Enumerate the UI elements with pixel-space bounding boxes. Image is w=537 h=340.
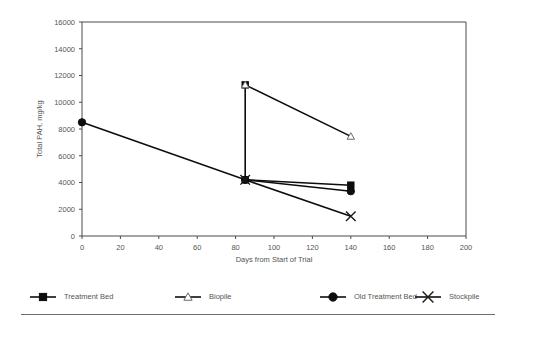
y-tick-label: 16000 <box>54 18 75 27</box>
x-tick-label: 100 <box>268 243 281 252</box>
data-point-marker <box>347 188 354 195</box>
y-tick-label: 8000 <box>58 125 75 134</box>
x-tick-label: 20 <box>116 243 124 252</box>
legend-item-label: Stockpile <box>449 292 479 301</box>
legend-marker <box>39 293 46 300</box>
legend-item-old-treatment-bed[interactable]: Old Treatment Bed <box>320 292 417 301</box>
x-tick-label: 120 <box>306 243 319 252</box>
series-treatment-bed <box>242 82 354 189</box>
legend-item-treatment-bed[interactable]: Treatment Bed <box>30 292 113 301</box>
x-tick-label: 80 <box>231 243 239 252</box>
legend-item-label: Old Treatment Bed <box>354 292 417 301</box>
legend-item-stockpile[interactable]: Stockpile <box>415 292 479 303</box>
y-axis: 0200040006000800010000120001400016000 <box>54 18 82 241</box>
x-tick-label: 180 <box>421 243 434 252</box>
x-tick-label: 40 <box>155 243 163 252</box>
y-tick-label: 14000 <box>54 45 75 54</box>
data-series-group <box>78 81 355 221</box>
series-path <box>82 122 351 191</box>
y-tick-label: 0 <box>71 232 75 241</box>
legend-svg: Treatment BedBiopileOld Treatment BedSto… <box>20 288 500 306</box>
legend-item-biopile[interactable]: Biopile <box>175 292 232 301</box>
y-tick-label: 10000 <box>54 98 75 107</box>
legend-item-label: Biopile <box>209 292 232 301</box>
series-path <box>245 85 351 185</box>
data-point-marker <box>346 211 356 221</box>
series-path <box>245 85 351 137</box>
x-axis-title: Days from Start of Trial <box>236 255 313 264</box>
x-tick-label: 160 <box>383 243 396 252</box>
x-tick-label: 0 <box>80 243 84 252</box>
plot-frame <box>82 22 466 236</box>
series-biopile <box>242 81 355 139</box>
chart-legend: Treatment BedBiopileOld Treatment BedSto… <box>20 288 500 306</box>
plot-box-edges <box>82 22 466 236</box>
line-chart: 0200040006000800010000120001400016000 02… <box>0 0 537 285</box>
y-axis-title: Total PAH, mg/kg <box>35 100 44 157</box>
y-tick-label: 4000 <box>58 178 75 187</box>
axis-lines <box>82 22 466 236</box>
figure: 0200040006000800010000120001400016000 02… <box>0 0 537 340</box>
x-tick-label: 60 <box>193 243 201 252</box>
legend-item-label: Treatment Bed <box>64 292 113 301</box>
y-tick-label: 12000 <box>54 71 75 80</box>
x-axis: 020406080100120140160180200 <box>80 236 472 252</box>
footer-divider <box>21 314 495 315</box>
legend-marker <box>329 293 337 301</box>
data-point-marker <box>78 119 85 126</box>
y-tick-label: 2000 <box>58 205 75 214</box>
x-tick-label: 140 <box>345 243 358 252</box>
x-tick-label: 200 <box>460 243 473 252</box>
y-tick-label: 6000 <box>58 152 75 161</box>
